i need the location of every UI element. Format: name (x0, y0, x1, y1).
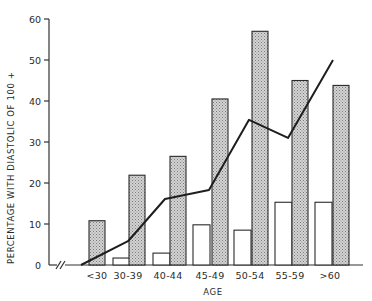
x-tick-label: 55-59 (275, 270, 304, 281)
bar-white-2 (153, 253, 170, 265)
x-axis-title: AGE (203, 287, 222, 297)
bar-white-1 (113, 258, 130, 265)
y-tick-label: 0 (35, 260, 41, 271)
y-tick-label: 10 (29, 219, 41, 230)
x-tick-label: 40-44 (153, 270, 182, 281)
x-tick-label: 50-54 (235, 270, 264, 281)
y-tick-label: 40 (29, 96, 41, 107)
x-tick-label: >60 (320, 270, 341, 281)
bar-chart: 0102030405060 <3030-3940-4445-4950-5455-… (0, 0, 372, 301)
bar-white-5 (275, 202, 292, 265)
bar-shaded-0 (89, 221, 105, 265)
bar-shaded-4 (252, 31, 268, 265)
y-tick-label: 20 (29, 178, 41, 189)
x-tick-label: 45-49 (195, 270, 224, 281)
bar-white-3 (193, 225, 210, 265)
bar-white-4 (234, 230, 251, 265)
bars (89, 31, 349, 265)
y-tick-label: 60 (29, 14, 41, 25)
x-tick-label: <30 (87, 270, 108, 281)
y-axis-title: PERCENTAGE WITH DIASTOLIC OF 100 + (6, 72, 16, 264)
y-axis: 0102030405060 (29, 14, 49, 271)
y-tick-label: 30 (29, 137, 41, 148)
bar-shaded-2 (170, 156, 186, 265)
bar-white-6 (315, 202, 332, 265)
y-tick-label: 50 (29, 55, 41, 66)
bar-shaded-6 (333, 85, 349, 265)
x-tick-labels: <3030-3940-4445-4950-5455-59>60 (87, 270, 341, 281)
x-tick-label: 30-39 (113, 270, 142, 281)
bar-shaded-1 (129, 175, 145, 265)
